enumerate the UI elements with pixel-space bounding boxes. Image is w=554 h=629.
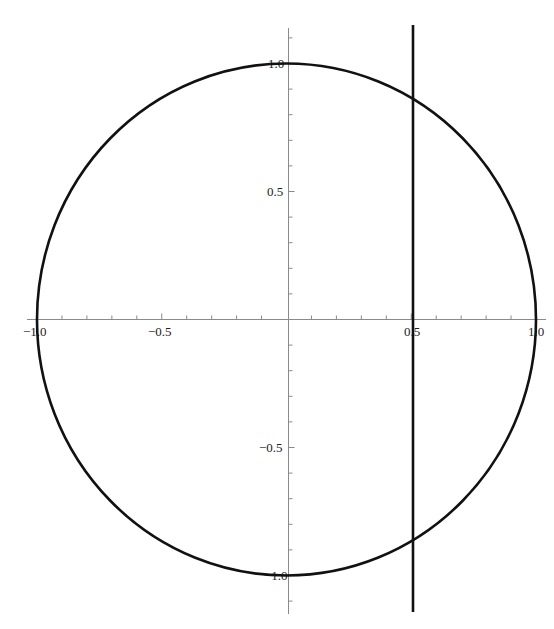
y-tick-label-05: 0.5: [267, 184, 283, 199]
plot-canvas: −1.0 −0.5 0.5 1.0 1.0 0.5 −0.5 −1.0: [0, 0, 554, 629]
x-tick-label-neg1: −1.0: [23, 324, 47, 339]
y-tick-label-neg05: −0.5: [259, 440, 283, 455]
x-axis-ticks: [37, 314, 536, 320]
x-tick-label-neg05: −0.5: [148, 324, 172, 339]
axes: [27, 28, 546, 614]
